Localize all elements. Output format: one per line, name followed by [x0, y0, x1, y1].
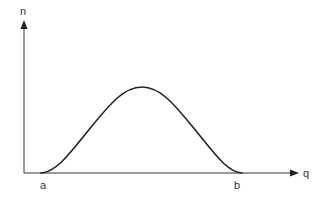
x-axis-arrow-icon: [290, 170, 299, 177]
marker-b-label: b: [234, 180, 240, 191]
y-axis-label: n: [20, 6, 26, 17]
bell-curve: [41, 87, 242, 173]
x-axis-label: q: [303, 168, 309, 179]
y-axis-arrow-icon: [21, 20, 28, 29]
marker-a-label: a: [40, 180, 46, 191]
diagram-canvas: [0, 0, 320, 198]
